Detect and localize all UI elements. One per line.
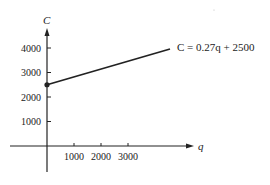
x-tick-label: 3000: [118, 151, 138, 162]
y-tick-label: 3000: [21, 67, 41, 78]
ticks: 1000200030001000200030004000: [21, 43, 138, 163]
chart: 1000200030001000200030004000 C q C = 0.2…: [0, 0, 270, 185]
y-tick-label: 2000: [21, 92, 41, 103]
scan-speck: [213, 9, 214, 10]
x-tick-label: 2000: [91, 151, 111, 162]
cost-line: [47, 49, 170, 85]
y-axis-label: C: [43, 14, 51, 26]
equation-label: C = 0.27q + 2500: [177, 41, 255, 53]
y-axis-arrow-icon: [45, 28, 50, 36]
y-tick-label: 4000: [21, 43, 41, 54]
y-tick-label: 1000: [21, 116, 41, 127]
series-line: [44, 49, 170, 87]
intercept-dot: [44, 82, 49, 87]
x-axis-arrow-icon: [186, 144, 194, 149]
x-tick-label: 1000: [64, 151, 84, 162]
x-axis-label: q: [198, 140, 204, 152]
